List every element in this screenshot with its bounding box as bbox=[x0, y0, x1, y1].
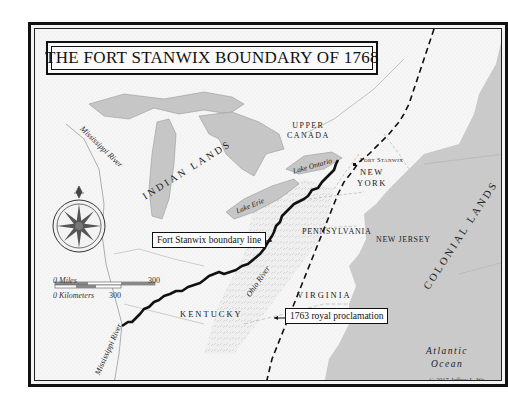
pennsylvania-label: PENNSYLVANIA bbox=[302, 228, 372, 236]
atlantic-ocean-label: Atlantic Ocean bbox=[426, 347, 468, 369]
new-york-line2: YORK bbox=[357, 179, 387, 188]
scale-km-max: 300 bbox=[109, 292, 121, 300]
kentucky-label: KENTUCKY bbox=[180, 310, 243, 319]
new-jersey-label: NEW JERSEY bbox=[376, 236, 431, 244]
fort-stanwix-label: Fort Stanwix bbox=[360, 157, 403, 164]
fort-stanwix-marker bbox=[353, 163, 356, 166]
scale-miles-unit: Miles bbox=[59, 276, 77, 285]
map-frame: Mississippi River INDIAN LANDS UPPER CAN… bbox=[28, 22, 508, 387]
title-cartouche: THE FORT STANWIX BOUNDARY OF 1768 bbox=[46, 41, 378, 75]
copyright-text: © 2017 Jeffrey L. Wa bbox=[429, 377, 484, 381]
scale-miles-zero: 0 bbox=[53, 276, 57, 285]
map-graphic bbox=[35, 29, 502, 381]
scale-km-label: 0 Kilometers bbox=[53, 292, 94, 300]
upper-canada-line1: UPPER bbox=[287, 122, 330, 130]
scale-miles-label: 0 Miles bbox=[53, 277, 77, 285]
upper-canada-label: UPPER CANADA bbox=[287, 122, 330, 140]
scale-miles-max: 300 bbox=[148, 277, 160, 285]
upper-canada-line2: CANADA bbox=[287, 132, 330, 140]
new-york-label: NEW YORK bbox=[357, 168, 387, 187]
new-york-line1: NEW bbox=[357, 168, 387, 177]
scale-km-zero: 0 bbox=[53, 291, 57, 300]
virginia-label: VIRGINIA bbox=[297, 291, 352, 300]
boundary-line-callout: Fort Stanwix boundary line bbox=[152, 232, 266, 248]
map-title: THE FORT STANWIX BOUNDARY OF 1768 bbox=[45, 48, 379, 68]
atlantic-line2: Ocean bbox=[426, 360, 468, 370]
proclamation-callout: 1763 royal proclamation bbox=[285, 308, 388, 324]
title-cartouche-inner: THE FORT STANWIX BOUNDARY OF 1768 bbox=[51, 46, 373, 70]
map-area: Mississippi River INDIAN LANDS UPPER CAN… bbox=[34, 28, 502, 381]
atlantic-line1: Atlantic bbox=[426, 347, 468, 357]
scale-km-unit: Kilometers bbox=[59, 291, 94, 300]
